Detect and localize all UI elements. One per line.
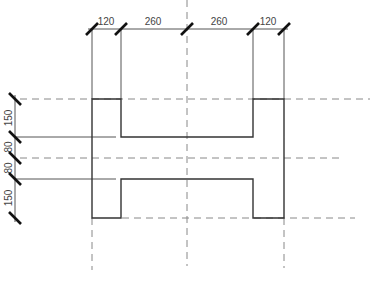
dim-label-web-top: 80 <box>3 141 14 153</box>
dimension-ticks <box>9 23 290 224</box>
i-section-drawing: 120 260 260 120 150 80 80 150 <box>0 0 370 281</box>
dim-label-bottom-flange: 150 <box>3 189 14 206</box>
dimension-lines <box>15 29 288 222</box>
dim-label-web-right: 260 <box>211 16 228 27</box>
extension-lines <box>15 29 284 179</box>
dim-label-flange-left: 120 <box>98 16 115 27</box>
dim-label-top-flange: 150 <box>3 109 14 126</box>
dim-label-flange-right: 120 <box>260 16 277 27</box>
dim-label-web-left: 260 <box>145 16 162 27</box>
centerlines <box>20 0 370 270</box>
dim-label-web-bottom: 80 <box>3 162 14 174</box>
